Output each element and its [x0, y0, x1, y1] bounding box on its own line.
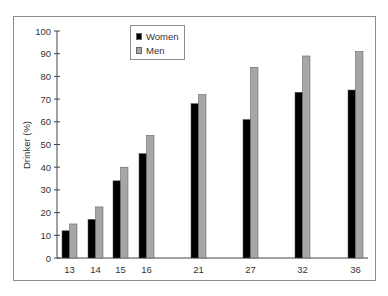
- bar-men-21: [199, 95, 207, 258]
- bar-women-13: [62, 231, 70, 258]
- y-axis-label: Drinker (%): [21, 121, 32, 169]
- bar-women-36: [348, 90, 356, 258]
- y-tick-label: 60: [40, 116, 51, 127]
- bar-men-13: [70, 224, 78, 258]
- x-tick-label: 21: [193, 264, 204, 275]
- y-tick-label: 40: [40, 162, 51, 173]
- x-tick-label: 36: [350, 264, 361, 275]
- bar-men-32: [303, 56, 311, 258]
- legend-item-men: Men: [136, 45, 164, 56]
- legend-label-women: Women: [146, 31, 179, 42]
- bar-women-32: [295, 92, 303, 258]
- bar-women-15: [113, 181, 121, 258]
- y-tick-label: 30: [40, 184, 51, 195]
- men-swatch-icon: [136, 47, 142, 54]
- y-tick-label: 100: [35, 26, 51, 37]
- x-tick-label: 14: [90, 264, 101, 275]
- bar-men-16: [147, 135, 155, 258]
- y-tick-label: 20: [40, 207, 51, 218]
- bar-women-21: [191, 104, 199, 258]
- bar-men-36: [356, 51, 364, 258]
- legend-item-women: Women: [136, 31, 179, 42]
- chart-legend: Women Men: [130, 25, 185, 60]
- women-swatch-icon: [136, 33, 142, 40]
- x-tick-label: 27: [245, 264, 256, 275]
- legend-label-men: Men: [146, 45, 164, 56]
- x-tick-label: 13: [64, 264, 75, 275]
- y-tick-label: 0: [46, 253, 51, 264]
- bar-women-14: [88, 219, 96, 258]
- x-tick-label: 16: [141, 264, 152, 275]
- bar-chart: 0102030405060708090100Drinker (%)1314151…: [0, 0, 388, 296]
- y-tick-label: 80: [40, 71, 51, 82]
- bar-men-27: [251, 67, 259, 258]
- x-tick-label: 32: [297, 264, 308, 275]
- bar-men-14: [96, 207, 104, 258]
- y-tick-label: 70: [40, 94, 51, 105]
- bar-women-16: [139, 154, 147, 258]
- x-tick-label: 15: [115, 264, 126, 275]
- y-tick-label: 90: [40, 48, 51, 59]
- y-tick-label: 10: [40, 230, 51, 241]
- y-tick-label: 50: [40, 139, 51, 150]
- bar-men-15: [121, 167, 129, 258]
- bar-women-27: [243, 120, 251, 258]
